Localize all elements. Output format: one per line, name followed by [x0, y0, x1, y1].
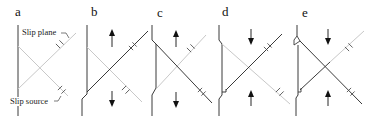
dislocation-tick-icon	[264, 43, 272, 51]
slip-source-label: Slip source	[9, 97, 49, 106]
arrow-down-icon	[173, 92, 179, 108]
slip-plane-leader	[61, 33, 69, 38]
arrow-up-icon	[325, 90, 331, 106]
arrow-up-icon	[109, 29, 115, 47]
arrow-up-icon	[173, 30, 179, 47]
arrow-up-icon	[248, 90, 254, 106]
dislocation-tick-icon	[56, 40, 64, 48]
crystal-edge-bottom	[296, 92, 298, 116]
slip-source-leader	[54, 96, 61, 101]
slip-plane-label: Slip plane	[21, 28, 57, 37]
arrow-down-icon	[109, 91, 115, 107]
slip-plane-active	[226, 34, 282, 90]
slip-plane-light	[87, 47, 142, 102]
panel-label-c: c	[157, 6, 163, 19]
panel-label-a: a	[15, 5, 21, 18]
arrow-down-icon	[248, 29, 254, 45]
diagram-canvas	[0, 0, 378, 116]
crystal-edge	[219, 25, 226, 92]
panel-label-b: b	[91, 5, 98, 18]
slip-diagram-figure: a b c d e Slip plane Slip source	[0, 0, 378, 116]
slip-plane-light-1	[18, 46, 68, 96]
arrow-down-icon	[325, 29, 331, 45]
step-notch-top	[294, 36, 300, 45]
slip-plane-light	[330, 31, 364, 62]
slip-plane-active	[87, 31, 148, 92]
panel-e	[294, 25, 364, 116]
panel-label-e: e	[302, 6, 308, 19]
crystal-edge	[82, 25, 87, 116]
panel-b	[82, 25, 148, 116]
crystal-edge-lower	[219, 92, 222, 116]
panel-label-d: d	[222, 5, 229, 18]
slip-plane-light	[156, 35, 206, 89]
dislocation-tick-icon	[347, 88, 355, 96]
slip-plane-light-2	[18, 33, 76, 89]
panel-d	[219, 25, 290, 116]
dislocation-tick-icon	[122, 86, 130, 94]
slip-plane-active-2	[300, 62, 330, 90]
panel-c	[152, 25, 212, 116]
crystal-edge	[152, 25, 156, 116]
slip-plane-active	[156, 44, 212, 103]
slip-plane-active-1	[300, 41, 362, 104]
